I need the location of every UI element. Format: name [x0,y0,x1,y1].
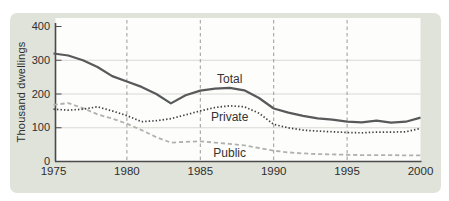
y-tick-label-300: 300 [22,54,50,67]
x-tick-label-1975: 1975 [36,165,72,178]
x-tick-label-1990: 1990 [256,165,292,178]
chart-card: Thousand dwellings 400 300 200 100 0 197… [10,13,441,193]
series-label-total: Total [200,72,260,86]
x-tick-label-2000: 2000 [403,165,439,178]
y-tick-label-100: 100 [22,121,50,134]
y-tick-label-400: 400 [22,20,50,33]
x-tick-label-1985: 1985 [182,165,218,178]
x-tick-label-1980: 1980 [109,165,145,178]
series-label-private: Private [200,110,260,124]
series-label-public: Public [200,146,260,160]
x-tick-label-1995: 1995 [329,165,365,178]
y-tick-label-200: 200 [22,88,50,101]
line-chart-canvas [10,13,441,193]
